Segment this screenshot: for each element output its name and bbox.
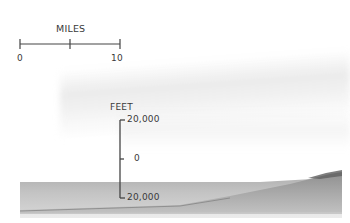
miles-tick-10: 10 xyxy=(111,53,123,63)
feet-tick-top: 20,000 xyxy=(127,114,160,124)
miles-scale-title: MILES xyxy=(56,23,85,34)
feet-scale-title: FEET xyxy=(110,102,133,112)
feet-scale-bar xyxy=(117,118,127,200)
miles-tick-0: 0 xyxy=(17,53,23,63)
miles-scale-bar xyxy=(18,38,124,50)
feet-tick-zero: 0 xyxy=(134,153,140,163)
feet-tick-bottom: 20,000 xyxy=(127,192,160,202)
